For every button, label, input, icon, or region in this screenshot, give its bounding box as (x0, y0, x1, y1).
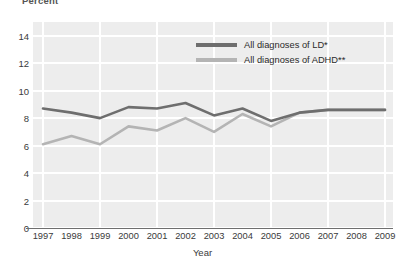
legend-swatch (196, 58, 237, 62)
legend-label: All diagnoses of ADHD** (244, 55, 345, 65)
y-axis-title: Percent (22, 0, 58, 6)
x-tick-label: 2005 (261, 231, 282, 241)
x-axis-ticks: 1997199819992000200120022003200420052006… (33, 231, 393, 245)
y-tick-label: 0 (1, 223, 29, 234)
x-tick-label: 1998 (61, 231, 82, 241)
legend-item: All diagnoses of ADHD** (196, 53, 345, 66)
legend-item: All diagnoses of LD* (196, 38, 345, 51)
x-tick-label: 1999 (90, 231, 111, 241)
x-tick-label: 1997 (33, 231, 54, 241)
x-tick-label: 2003 (204, 231, 225, 241)
y-tick-label: 12 (1, 58, 29, 69)
x-tick-label: 2008 (346, 231, 367, 241)
x-axis-line (26, 228, 393, 229)
chart-figure: Percent 02468101214 19971998199920002001… (0, 0, 405, 263)
y-axis-ticks: 02468101214 (0, 22, 29, 228)
x-tick-label: 2006 (289, 231, 310, 241)
x-tick-label: 2000 (118, 231, 139, 241)
x-tick-label: 2009 (375, 231, 396, 241)
x-tick-label: 2007 (318, 231, 339, 241)
chart-legend: All diagnoses of LD*All diagnoses of ADH… (196, 38, 345, 68)
y-tick-label: 10 (1, 85, 29, 96)
x-tick-label: 2001 (147, 231, 168, 241)
x-axis-title: Year (0, 247, 405, 258)
y-tick-label: 6 (1, 140, 29, 151)
y-tick-label: 8 (1, 113, 29, 124)
y-tick-label: 4 (1, 168, 29, 179)
series-line (43, 103, 385, 121)
y-tick-label: 14 (1, 30, 29, 41)
x-tick-label: 2004 (232, 231, 253, 241)
legend-swatch (196, 43, 237, 47)
x-tick-label: 2002 (175, 231, 196, 241)
legend-label: All diagnoses of LD* (244, 40, 328, 50)
y-tick-label: 2 (1, 195, 29, 206)
